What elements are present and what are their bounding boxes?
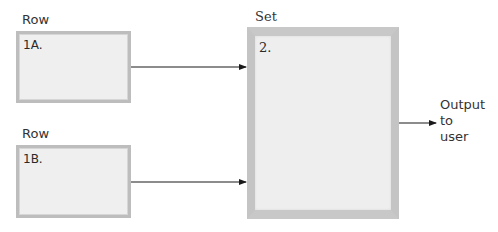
output-line-3: user — [440, 129, 485, 145]
output-line-1: Output — [440, 97, 485, 113]
row-b-id: 1B. — [23, 152, 43, 166]
row-a-label: Row — [22, 12, 49, 27]
set-label: Set — [255, 9, 277, 24]
output-label: Output to user — [440, 97, 485, 145]
set-box: 2. — [247, 27, 399, 219]
row-a-box: 1A. — [16, 31, 131, 103]
row-b-box: 1B. — [16, 145, 131, 218]
output-line-2: to — [440, 113, 485, 129]
row-b-label: Row — [22, 126, 49, 141]
row-a-id: 1A. — [23, 38, 42, 52]
set-id: 2. — [259, 40, 271, 55]
